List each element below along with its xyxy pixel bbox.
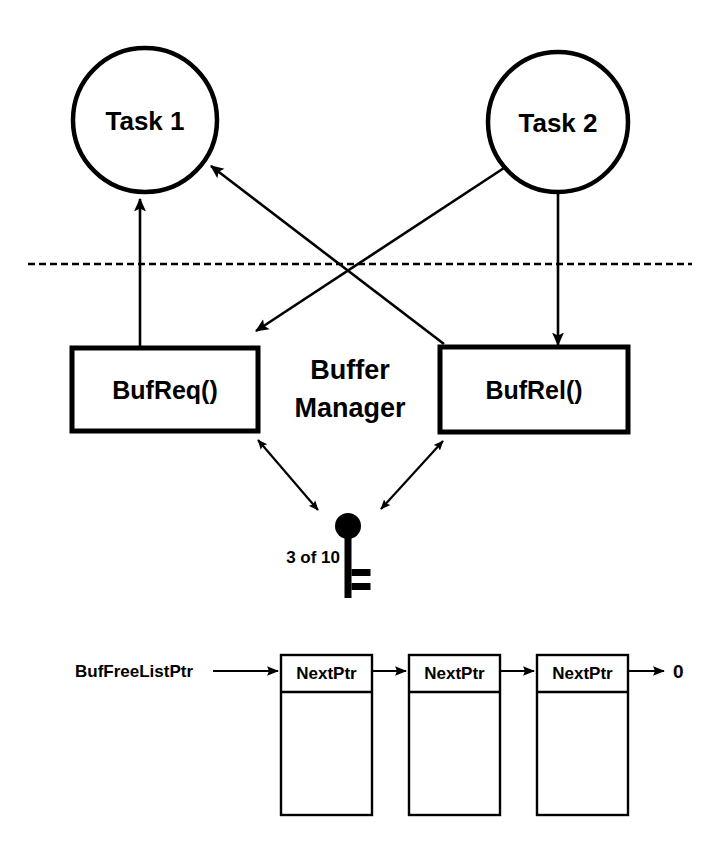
key-icon <box>335 513 371 598</box>
diagram-canvas: Task 1 Task 2 BufReq() BufRel() Buffer M… <box>0 0 718 853</box>
buffer-manager-title-line1: Buffer <box>310 355 390 385</box>
task-1-label: Task 1 <box>105 106 184 136</box>
buf-free-list-ptr-label: BufFreeListPtr <box>75 662 193 681</box>
edge-task2-to-bufreq <box>256 168 504 331</box>
buffer-manager-title-line2: Manager <box>294 393 406 423</box>
task-2-label: Task 2 <box>518 108 597 138</box>
edge-bufreq-semaphore <box>258 440 318 510</box>
buffer-manager-diagram: Task 1 Task 2 BufReq() BufRel() Buffer M… <box>0 0 718 853</box>
edge-bufrel-to-task1 <box>211 166 444 344</box>
bufreq-label: BufReq() <box>112 376 218 404</box>
null-terminator-label: 0 <box>673 661 684 682</box>
semaphore-count-label: 3 of 10 <box>286 548 340 567</box>
buf-node-3-nextptr-label: NextPtr <box>552 664 613 683</box>
buf-node-2-nextptr-label: NextPtr <box>424 664 485 683</box>
bufrel-label: BufRel() <box>485 376 582 404</box>
edge-bufrel-semaphore <box>381 441 443 509</box>
buf-node-1-nextptr-label: NextPtr <box>296 664 357 683</box>
